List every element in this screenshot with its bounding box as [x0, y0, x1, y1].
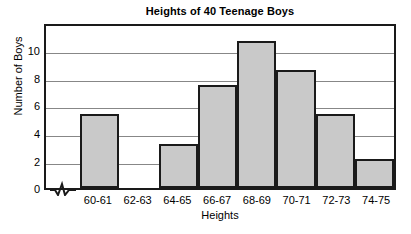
bar-slot-66-67 — [198, 26, 237, 188]
y-axis-label: Number of Boys — [12, 16, 24, 136]
bar-72-73[interactable] — [316, 114, 355, 188]
x-tick-label-62-63: 62-63 — [118, 194, 158, 207]
x-tick-label-68-69: 68-69 — [237, 194, 277, 207]
bar-70-71[interactable] — [276, 70, 315, 188]
bar-74-75[interactable] — [355, 159, 394, 188]
chart-title: Heights of 40 Teenage Boys — [44, 4, 396, 18]
plot-inner — [46, 26, 394, 188]
bar-slot-62-63 — [119, 26, 158, 188]
y-tick-label-0: 0 — [6, 184, 40, 195]
x-tick-label-70-71: 70-71 — [277, 194, 317, 207]
chart-figure: Heights of 40 Teenage Boys 10 8 6 4 2 0 … — [0, 0, 411, 234]
y-tick-label-2: 2 — [6, 157, 40, 168]
x-tick-label-60-61: 60-61 — [78, 194, 118, 207]
x-axis-ticks: 60-61 62-63 64-65 66-67 68-69 70-71 72-7… — [78, 194, 396, 207]
bar-60-61[interactable] — [80, 114, 119, 188]
bar-slot-68-69 — [237, 26, 276, 188]
x-tick-label-66-67: 66-67 — [197, 194, 237, 207]
plot-area — [44, 24, 396, 190]
x-tick-label-72-73: 72-73 — [317, 194, 357, 207]
bar-slot-72-73 — [316, 26, 355, 188]
x-tick-label-74-75: 74-75 — [356, 194, 396, 207]
bar-series — [80, 26, 394, 188]
bar-64-65[interactable] — [159, 144, 198, 188]
bar-slot-64-65 — [159, 26, 198, 188]
x-axis-label: Heights — [44, 209, 396, 222]
x-tick-label-64-65: 64-65 — [158, 194, 198, 207]
bar-68-69[interactable] — [237, 41, 276, 188]
zigzag-break-icon — [48, 176, 78, 196]
bar-66-67[interactable] — [198, 85, 237, 188]
bar-slot-70-71 — [276, 26, 315, 188]
bar-slot-60-61 — [80, 26, 119, 188]
bar-slot-74-75 — [355, 26, 394, 188]
